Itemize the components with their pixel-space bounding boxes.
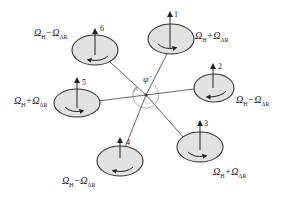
rotor-number-1: 1 <box>174 11 178 19</box>
rotor-2 <box>194 66 234 102</box>
arm-5 <box>98 95 146 101</box>
rotor-number-5: 5 <box>82 79 86 87</box>
rotor-number-6: 6 <box>100 25 104 33</box>
arm-3 <box>146 95 184 138</box>
speed-label-2: ΩH−ΩΔR <box>236 95 269 107</box>
speed-label-1: ΩH+ΩΔR <box>195 31 228 43</box>
speed-label-5: ΩH+ΩΔR <box>14 96 47 108</box>
rotor-5 <box>54 80 100 117</box>
rotor-4 <box>97 140 143 176</box>
speed-label-3: ΩH+ΩΔR <box>213 167 246 179</box>
rotor-6 <box>72 31 118 65</box>
frame-arms <box>98 52 194 150</box>
rotor-1 <box>148 14 194 54</box>
rotor-number-4: 4 <box>126 139 130 147</box>
speed-label-4: ΩH−ΩΔR <box>62 176 95 188</box>
rotor-3 <box>177 123 223 162</box>
arm-6 <box>110 62 146 95</box>
rotor-number-2: 2 <box>218 63 222 71</box>
rotor-number-3: 3 <box>204 120 208 128</box>
yaw-acceleration-label: ψ̈ <box>143 75 149 84</box>
yaw-arc-icon <box>133 86 159 108</box>
center-hub <box>145 94 148 97</box>
speed-label-6: ΩH−ΩΔR <box>34 28 67 40</box>
arm-2 <box>146 89 194 95</box>
